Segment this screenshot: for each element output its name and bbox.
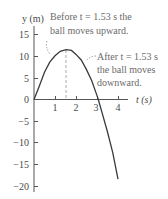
y-tick-minus-10: −10 <box>13 137 29 148</box>
y-ticks <box>34 35 38 187</box>
annotation-before-pointer <box>46 41 50 54</box>
y-tick-15: 15 <box>19 29 29 40</box>
y-axis-label: y (m) <box>22 13 44 25</box>
annotation-after-line2: the ball moves <box>97 64 155 75</box>
annotation-after-line3: downward. <box>97 77 142 88</box>
annotation-before: Before t = 1.53 s the <box>50 11 132 22</box>
annotation-after-2: the ball moves <box>97 64 155 75</box>
annotation-before-2: ball moves upward. <box>50 25 129 36</box>
y-tick-minus-5: −5 <box>18 116 29 127</box>
y-tick-10: 10 <box>19 51 29 62</box>
annotation-after: After t = 1.53 s <box>97 51 158 62</box>
position-time-chart: 15 10 5 0 −5 −10 −15 −20 1 2 3 4 y (m) t… <box>0 0 168 199</box>
annotation-after-line1: After t = 1.53 s <box>97 51 158 62</box>
annotation-before-line2: ball moves upward. <box>50 25 129 36</box>
annotation-after-3: downward. <box>97 77 142 88</box>
x-axis-label: t (s) <box>136 94 153 106</box>
annotation-before-line1: Before t = 1.53 s the <box>50 11 132 22</box>
x-tick-4: 4 <box>116 102 121 113</box>
y-tick-0: 0 <box>24 94 29 105</box>
annotation-after-pointer <box>86 56 96 61</box>
x-tick-1: 1 <box>53 102 58 113</box>
x-tick-2: 2 <box>74 102 79 113</box>
y-tick-minus-15: −15 <box>13 159 29 170</box>
y-tick-minus-20: −20 <box>13 181 29 192</box>
y-tick-5: 5 <box>24 73 29 84</box>
x-tick-3: 3 <box>94 102 99 113</box>
